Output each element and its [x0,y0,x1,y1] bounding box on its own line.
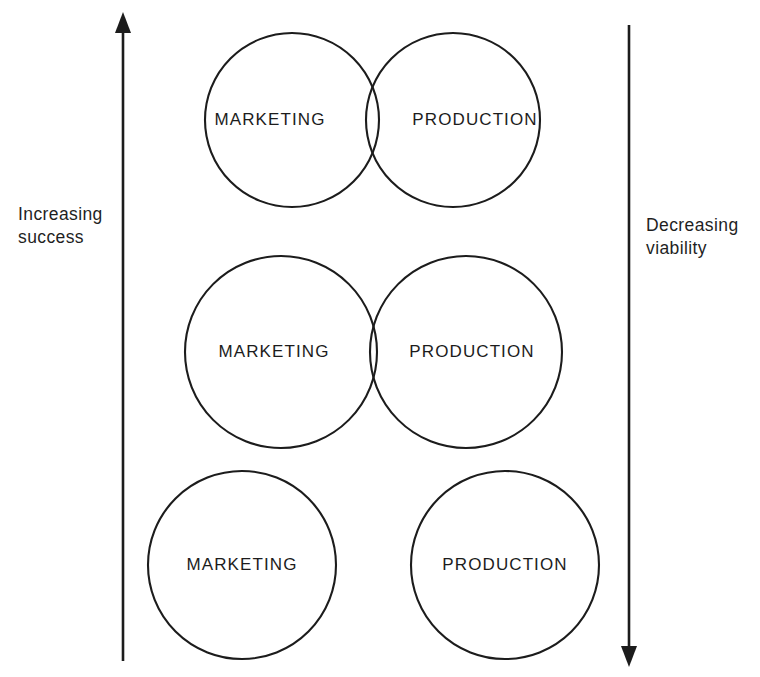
row-slight-overlap: MARKETING PRODUCTION [185,256,562,448]
arrow-down-icon [621,646,637,667]
marketing-label: MARKETING [219,342,330,361]
production-label: PRODUCTION [409,342,534,361]
arrow-up-icon [115,12,131,33]
left-axis-arrow [115,12,131,661]
marketing-label: MARKETING [187,555,298,574]
production-label: PRODUCTION [412,110,537,129]
marketing-label: MARKETING [215,110,326,129]
right-axis-arrow [621,25,637,667]
figure-canvas: MARKETING PRODUCTION MARKETING PRODUCTIO… [0,0,760,677]
production-label: PRODUCTION [442,555,567,574]
increasing-success-label: Increasing success [18,203,118,249]
decreasing-viability-label: Decreasing viability [646,214,754,260]
venn-progression-figure: MARKETING PRODUCTION MARKETING PRODUCTIO… [0,0,760,677]
row-no-overlap: MARKETING PRODUCTION [148,471,599,659]
row-high-overlap: MARKETING PRODUCTION [205,33,540,207]
